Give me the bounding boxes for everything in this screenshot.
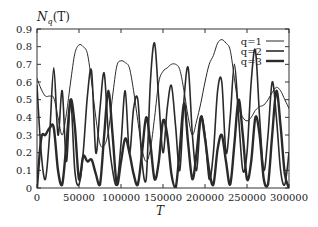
y-tick-label: 0 (26, 183, 32, 194)
x-tick-label: 100000 (102, 192, 140, 203)
y-tick-label: 0.3 (16, 130, 32, 141)
x-tick-label: 300000 (270, 192, 308, 203)
y-tick-label: 0.5 (16, 94, 32, 105)
y-tick-label: 0.7 (16, 59, 32, 70)
x-tick-label: 0 (34, 192, 40, 203)
y-axis-label: Nq(T) (36, 10, 70, 26)
x-tick-label: 200000 (186, 192, 224, 203)
y-tick-label: 0.1 (16, 165, 32, 176)
x-tick-label: 50000 (63, 192, 95, 203)
legend: q=1q=2q=3 (240, 36, 284, 67)
x-tick-label: 150000 (144, 192, 182, 203)
y-tick-label: 0.4 (16, 112, 32, 123)
y-tick-label: 0.8 (16, 41, 32, 52)
x-axis-label: T (156, 204, 165, 218)
chart-canvas: 00.10.20.30.40.50.60.70.80.9 05000010000… (0, 0, 318, 227)
y-axis-label-paren: (T) (53, 10, 70, 24)
y-axis-label-main: N (36, 10, 48, 24)
legend-label-q3: q=3 (241, 56, 262, 67)
x-tick-label: 250000 (228, 192, 266, 203)
y-tick-label: 0.2 (16, 147, 32, 158)
y-tick-label: 0.9 (16, 24, 32, 35)
y-tick-label: 0.6 (16, 77, 32, 88)
